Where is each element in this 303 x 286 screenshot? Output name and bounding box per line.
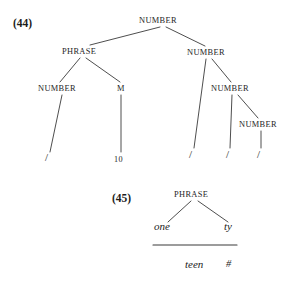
example-number-45: (45) — [112, 192, 131, 204]
edge-rightnumber-slash — [194, 59, 206, 148]
node-m: M — [117, 84, 125, 94]
tree-edges — [0, 0, 303, 286]
morpheme-one: one — [154, 220, 170, 232]
terminal-ten: 10 — [114, 155, 123, 165]
figure-page: (44) NUMBER PHRASE NUMBER NUMBER M NUMBE… — [0, 0, 303, 286]
edge-root-phrase — [90, 27, 160, 45]
edge-leftnumber-slash — [50, 95, 62, 152]
node-inner-number: NUMBER — [239, 120, 277, 130]
edge-phrase-m — [86, 58, 120, 82]
example-number-44: (44) — [13, 17, 32, 29]
node-right-number: NUMBER — [187, 48, 225, 58]
edge-phrase-leftnumber — [60, 58, 80, 82]
node-left-number: NUMBER — [38, 84, 76, 94]
terminal-slash-3: / — [226, 149, 229, 160]
node-phrase-45: PHRASE — [174, 190, 208, 200]
edge-root-rightnumber — [166, 27, 205, 46]
morpheme-teen: teen — [185, 258, 203, 270]
edge-phrase45-ty — [198, 201, 228, 222]
node-root-number: NUMBER — [139, 16, 177, 26]
terminal-slash-1: / — [45, 152, 48, 163]
edge-phrase45-one — [168, 201, 191, 222]
edge-midnumber-innernumber — [238, 95, 258, 118]
edge-midnumber-slash — [230, 95, 232, 148]
edge-rightnumber-midnumber — [212, 59, 231, 82]
terminal-slash-2: / — [189, 149, 192, 160]
terminal-slash-4: / — [257, 149, 260, 160]
morpheme-boundary-hash: # — [226, 258, 231, 269]
morpheme-ty: ty — [224, 220, 232, 232]
node-phrase: PHRASE — [62, 47, 96, 57]
node-mid-number: NUMBER — [211, 84, 249, 94]
